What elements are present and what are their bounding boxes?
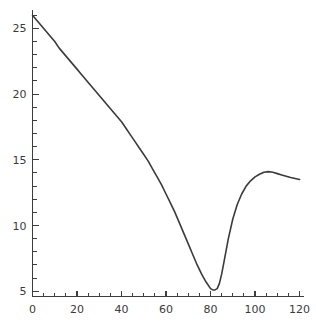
x-axis: 020406080100120 [29, 291, 310, 316]
x-axis-tick-label: 60 [159, 303, 173, 316]
y-axis-tick-label: 5 [20, 285, 27, 298]
x-axis-tick-label: 80 [204, 303, 218, 316]
x-axis-tick-label: 40 [115, 303, 129, 316]
y-axis-tick-label: 20 [13, 88, 27, 101]
y-axis-tick-label: 10 [13, 220, 27, 233]
x-axis-tick-label: 120 [289, 303, 310, 316]
y-axis: 510152025 [13, 10, 39, 298]
x-axis-tick-label: 100 [245, 303, 266, 316]
x-axis-tick-label: 0 [29, 303, 36, 316]
data-line-series-1 [33, 15, 300, 290]
y-axis-tick-label: 25 [13, 22, 27, 35]
x-axis-tick-label: 20 [70, 303, 84, 316]
line-chart-figure: 510152025 020406080100120 [0, 0, 316, 326]
data-series-group [33, 15, 300, 290]
y-axis-tick-label: 15 [13, 154, 27, 167]
chart-canvas: 510152025 020406080100120 [0, 0, 316, 326]
